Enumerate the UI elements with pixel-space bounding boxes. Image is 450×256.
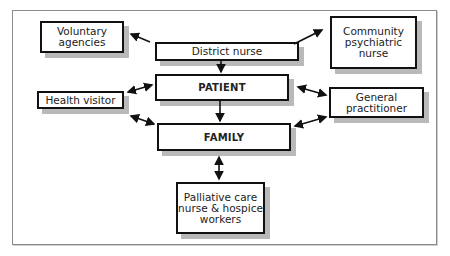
node-family: FAMILY bbox=[157, 123, 291, 151]
node-palliative-care: Palliative care nurse & hospice workers bbox=[176, 182, 265, 234]
node-patient: PATIENT bbox=[155, 74, 289, 101]
node-community-psychiatric-nurse: Community psychiatric nurse bbox=[330, 16, 417, 69]
node-health-visitor: Health visitor bbox=[37, 91, 124, 109]
node-district-nurse: District nurse bbox=[155, 42, 299, 61]
node-general-practitioner: General practitioner bbox=[329, 87, 424, 118]
node-voluntary-agencies: Voluntary agencies bbox=[40, 21, 124, 53]
